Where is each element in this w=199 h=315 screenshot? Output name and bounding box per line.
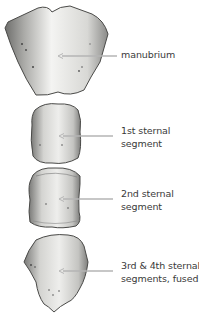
label-first-sternal-segment: 1st sternal segment: [121, 125, 170, 150]
second-sternal-segment-bone: [29, 168, 80, 228]
label-line: segment: [121, 201, 174, 214]
label-line: 3rd & 4th sternal: [121, 260, 199, 273]
label-line: segments, fused: [121, 273, 199, 286]
label-manubrium: manubrium: [121, 49, 175, 62]
first-sternal-segment-bone: [31, 104, 80, 164]
label-line: manubrium: [121, 49, 175, 62]
label-line: 1st sternal: [121, 125, 170, 138]
label-line: 2nd sternal: [121, 188, 174, 201]
third-fourth-sternal-segments-bone: [24, 235, 88, 312]
label-line: segment: [121, 138, 170, 151]
label-third-fourth-sternal-segments: 3rd & 4th sternal segments, fused: [121, 260, 199, 285]
manubrium-bone: [5, 6, 108, 95]
label-second-sternal-segment: 2nd sternal segment: [121, 188, 174, 213]
